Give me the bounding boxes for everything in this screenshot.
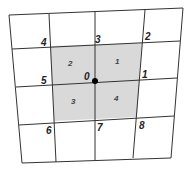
node-label-4: 4 (40, 37, 47, 48)
center-node (92, 78, 98, 84)
node-label-5: 5 (41, 75, 47, 86)
center-node-label: 0 (84, 71, 90, 82)
node-label-7: 7 (97, 122, 103, 133)
node-label-1: 1 (142, 69, 148, 80)
element-label-3: 3 (71, 97, 76, 106)
mesh-diagram: 0 1 2 3 4 5 6 7 8 1 2 3 4 (0, 0, 187, 172)
node-label-3: 3 (95, 34, 101, 45)
element-label-1: 1 (115, 57, 120, 66)
node-label-6: 6 (46, 125, 52, 136)
element-label-2: 2 (67, 59, 73, 68)
node-label-2: 2 (144, 31, 151, 42)
node-label-8: 8 (139, 120, 145, 131)
element-label-4: 4 (113, 94, 119, 103)
